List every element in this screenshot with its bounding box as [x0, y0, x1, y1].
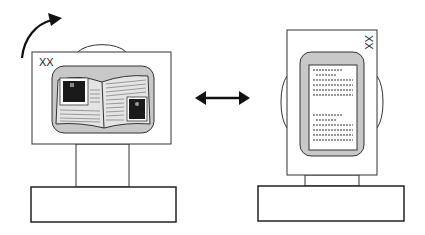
open-book-icon	[56, 76, 150, 128]
left-stand-neck	[76, 144, 129, 187]
right-stand-base	[258, 186, 404, 221]
right-device: XX	[258, 30, 404, 221]
diagram-canvas: XX	[0, 0, 425, 235]
left-device-label: XX	[39, 56, 54, 68]
left-stand-base	[31, 187, 176, 222]
double-arrow-icon	[195, 91, 250, 105]
right-device-label: XX	[363, 35, 375, 50]
right-stand-neck	[305, 175, 359, 186]
right-text-page	[309, 65, 357, 150]
rotation-arrow-icon	[22, 13, 62, 58]
left-device: XX	[31, 45, 176, 222]
